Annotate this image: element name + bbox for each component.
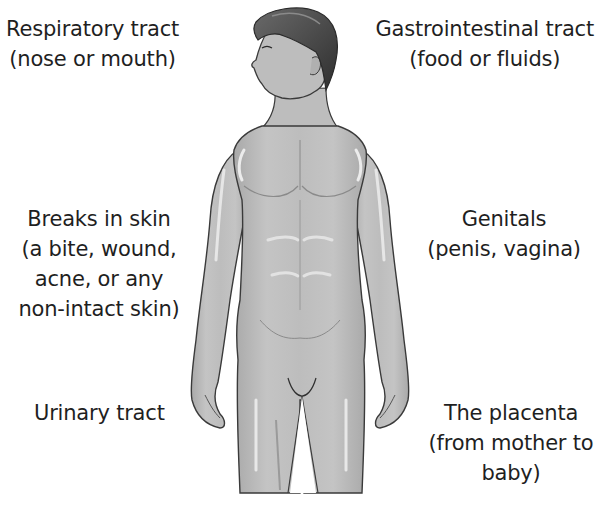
skin-title: Breaks in skin (4, 204, 194, 234)
skin-detail-line1: (a bite, wound, (4, 234, 194, 264)
label-gastrointestinal-tract: Gastrointestinal tract (food or fluids) (376, 14, 594, 74)
genitals-title: Genitals (414, 204, 594, 234)
placenta-detail-line1: (from mother to (426, 428, 596, 458)
placenta-detail-line2: baby) (426, 458, 596, 488)
skin-detail-line3: non-intact skin) (4, 294, 194, 324)
label-placenta: The placenta (from mother to baby) (426, 398, 596, 488)
respiratory-detail: (nose or mouth) (6, 44, 179, 74)
respiratory-title: Respiratory tract (6, 14, 179, 44)
genitals-detail: (penis, vagina) (414, 234, 594, 264)
skin-detail-line2: acne, or any (4, 264, 194, 294)
label-respiratory-tract: Respiratory tract (nose or mouth) (6, 14, 179, 74)
placenta-title: The placenta (426, 398, 596, 428)
gastrointestinal-detail: (food or fluids) (376, 44, 594, 74)
label-genitals: Genitals (penis, vagina) (414, 204, 594, 264)
gastrointestinal-title: Gastrointestinal tract (376, 14, 594, 44)
torso (234, 126, 367, 493)
label-breaks-in-skin: Breaks in skin (a bite, wound, acne, or … (4, 204, 194, 324)
urinary-title: Urinary tract (34, 398, 165, 428)
head (252, 8, 338, 99)
label-urinary-tract: Urinary tract (34, 398, 165, 428)
